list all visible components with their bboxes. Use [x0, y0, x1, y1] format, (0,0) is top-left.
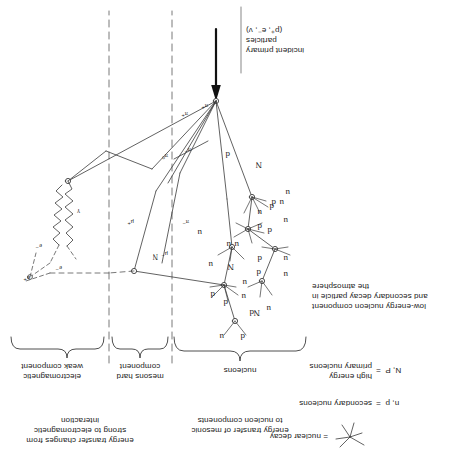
- quark-label-d-10: d: [272, 198, 277, 207]
- quark-label-u-6: u: [284, 254, 289, 263]
- quark-label-u-7: u: [209, 260, 214, 269]
- photon-zigzag-2: [53, 185, 63, 245]
- bracket-label-em-line1: electromagnetic: [6, 371, 98, 381]
- bracket-label-mesons-line2: component: [102, 361, 178, 371]
- em-feed-line: [68, 151, 106, 181]
- low-energy-note-line1: low-energy nucleon component: [312, 301, 472, 311]
- quark-label-d-3: d: [211, 290, 216, 299]
- pion-plus-label-2: π⁺: [201, 102, 208, 111]
- bracket-label-nucleons: nucleons: [200, 365, 280, 375]
- quark-label-u-14: u: [198, 228, 203, 237]
- star-burst-icon: [336, 423, 364, 447]
- meson-to-nucleon-transfer: [134, 271, 224, 285]
- quark-label-d-6: d: [258, 254, 263, 263]
- quark-label-u-8: u: [235, 240, 240, 249]
- nucleon-trunk-2: [248, 197, 252, 229]
- quark-label-u-13: u: [286, 188, 291, 197]
- quark-label-d-4: d: [257, 268, 262, 277]
- quark-label-d-1: d: [241, 332, 246, 341]
- nucleon-label-3: N: [256, 160, 263, 169]
- quark-label-u-12: u: [280, 198, 285, 207]
- bracket-label-em-line2: weak component: [6, 361, 98, 371]
- nucleon-label-1: N: [254, 308, 261, 317]
- low-energy-note-line2: and secondary decay particle in: [312, 291, 472, 301]
- electron-track-6: [109, 271, 134, 273]
- em-transfer-line3: interaction: [4, 415, 156, 425]
- incident-primary-caption-line3: (p⁺, e⁻, ν): [246, 25, 334, 35]
- quark-label-u-9: u: [227, 240, 232, 249]
- nucleon-label-2: N: [228, 262, 235, 271]
- penetrating-muon-track: [68, 101, 216, 181]
- electron-track-2: [30, 263, 50, 277]
- quark-label-u-1: u: [220, 332, 225, 341]
- quark-label-d-7: d: [258, 222, 263, 231]
- quark-label-u-4: u: [267, 304, 272, 313]
- pion-zero-label: π⁰: [162, 152, 168, 161]
- incident-primary-caption-line2: particles: [246, 35, 334, 45]
- nuclear-decay-burst-4: [248, 281, 272, 297]
- legend-secondary-nucleons-line1: secondary nucleons: [252, 398, 372, 408]
- electron-track-4: [67, 246, 76, 259]
- brace-electromagnetic: [11, 337, 104, 358]
- quark-label-u-3: u: [243, 278, 248, 287]
- pizero-to-em: [106, 151, 152, 169]
- incident-primary-arrow: [211, 29, 221, 101]
- incident-primary-caption-line1: incident primary: [246, 45, 334, 55]
- pion-minus-label: π⁻: [184, 146, 191, 155]
- em-transfer-line1: energy transfer changes from: [4, 435, 156, 445]
- nucleonic-transfer-line2: to nucleon components: [170, 415, 310, 425]
- legend-primary-nucleons-symbol: N, P =: [376, 365, 468, 375]
- electron-label-2: e⁺: [23, 274, 30, 283]
- legend-secondary-nucleons-symbol: n, p =: [376, 398, 468, 408]
- quark-label-d-11: d: [226, 150, 231, 159]
- quark-label-d-2: d: [224, 298, 229, 307]
- muon-minus-label: μ⁻: [161, 250, 169, 259]
- air-shower-cascade-figure: N, P = high energy primary nucleons n, p…: [0, 0, 474, 459]
- quark-label-d-5: d: [250, 308, 255, 317]
- pion-line-2: [168, 101, 216, 183]
- electron-label-3: e⁻: [35, 242, 42, 251]
- pion-label-upper: π⁻: [182, 218, 189, 227]
- quark-label-d-8: d: [268, 226, 273, 235]
- quark-label-u-5: u: [284, 270, 289, 279]
- cascade-line-art: [0, 0, 474, 459]
- brace-mesons: [112, 337, 168, 358]
- electron-label-1: e⁻: [55, 264, 62, 273]
- nucleonic-transfer-line1: energy transfer of mesonic: [170, 425, 310, 435]
- em-transfer-line2: strong to electromagnetic: [4, 425, 156, 435]
- muon-plus-label: μ⁺: [127, 218, 135, 227]
- quark-label-u-2: u: [242, 292, 247, 301]
- bracket-label-mesons-line1: mesons hard: [102, 371, 178, 381]
- photon-label-1: γ: [77, 208, 80, 217]
- quark-label-u-10: u: [284, 216, 289, 225]
- pion-plus-label: π⁺: [181, 110, 188, 119]
- nucleon-trunk-4: [262, 249, 275, 281]
- photon-zigzag-1: [65, 181, 73, 246]
- nucleon-label-4: N: [153, 252, 158, 261]
- low-energy-note-line3: the atmosphere: [312, 281, 472, 291]
- quark-label-u-11: u: [258, 208, 263, 217]
- nuclear-decay-burst-1: [244, 197, 268, 213]
- electron-track-1: [50, 245, 59, 263]
